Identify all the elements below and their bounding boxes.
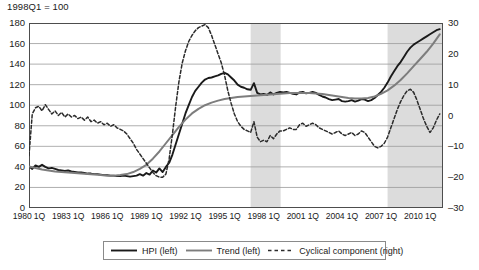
y-right-tick-0: 0 xyxy=(448,111,474,121)
y-left-tick-180: 180 xyxy=(1,18,25,28)
y-left-tick-120: 120 xyxy=(1,80,25,90)
plot-area xyxy=(29,23,443,208)
y-left-tick-20: 20 xyxy=(1,182,25,192)
x-tick-1995: 1995 1Q xyxy=(203,212,247,221)
x-tick-2007: 2007 1Q xyxy=(359,212,403,221)
chart-legend: HPI (left)Trend (left)Cyclical component… xyxy=(103,241,386,260)
x-tick-1998: 1998 1Q xyxy=(242,212,286,221)
chart-figure: 1998Q1 = 100 180160140120100806040200 30… xyxy=(0,0,479,270)
y-right-tick-20: 20 xyxy=(448,49,474,59)
plot-frame xyxy=(30,24,443,208)
x-tick-1980: 1980 1Q xyxy=(7,212,51,221)
plot-svg xyxy=(29,23,443,208)
y-right-tick--20: –20 xyxy=(448,172,474,182)
legend-entry-0: HPI (left) xyxy=(110,246,185,256)
x-tick-2010: 2010 1Q xyxy=(398,212,442,221)
y-left-tick-160: 160 xyxy=(1,39,25,49)
y-left-tick-80: 80 xyxy=(1,121,25,131)
y-left-tick-40: 40 xyxy=(1,162,25,172)
legend-label-0: HPI (left) xyxy=(142,246,178,256)
legend-label-1: Trend (left) xyxy=(217,246,261,256)
y-right-tick--10: –10 xyxy=(448,141,474,151)
solid-black-line-icon xyxy=(110,246,138,255)
x-tick-2004: 2004 1Q xyxy=(320,212,364,221)
chart-title: 1998Q1 = 100 xyxy=(7,1,69,12)
solid-gray-line-icon xyxy=(185,246,213,255)
y-left-tick-140: 140 xyxy=(1,59,25,69)
y-right-tick-10: 10 xyxy=(448,80,474,90)
shaded-band-0 xyxy=(251,23,281,208)
y-left-tick-100: 100 xyxy=(1,100,25,110)
y-right-tick-30: 30 xyxy=(448,18,474,28)
y-right-tick--30: –30 xyxy=(448,203,474,213)
x-tick-1989: 1989 1Q xyxy=(124,212,168,221)
x-tick-1986: 1986 1Q xyxy=(85,212,129,221)
legend-entry-2: Cyclical component (right) xyxy=(267,246,410,256)
legend-entry-1: Trend (left) xyxy=(185,246,268,256)
x-tick-1992: 1992 1Q xyxy=(163,212,207,221)
series-cyclical-component-right xyxy=(29,25,440,178)
x-tick-1983: 1983 1Q xyxy=(46,212,90,221)
x-tick-2001: 2001 1Q xyxy=(281,212,325,221)
y-left-tick-60: 60 xyxy=(1,141,25,151)
legend-label-2: Cyclical component (right) xyxy=(299,246,403,256)
dashed-line-icon xyxy=(267,246,295,255)
series-hpi-left xyxy=(29,29,440,176)
